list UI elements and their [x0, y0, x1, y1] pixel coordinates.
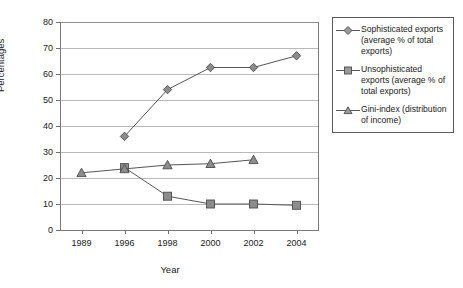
y-tick-label: 20 [43, 174, 53, 183]
data-point-marker [206, 63, 214, 71]
data-point-marker [164, 192, 172, 200]
data-point-marker [250, 200, 258, 208]
plot-area [60, 22, 318, 230]
x-tick-mark [297, 230, 298, 234]
x-axis-line [60, 230, 319, 231]
x-tick-mark [254, 230, 255, 234]
legend-label: Gini-index (distribution of income) [360, 104, 449, 126]
y-tick-label: 60 [43, 70, 53, 79]
legend-label: Unsophisticated exports (average % of to… [360, 64, 449, 97]
x-tick-mark [211, 230, 212, 234]
x-tick-label: 2002 [243, 238, 263, 248]
legend-item-gini-index: Gini-index (distribution of income) [336, 104, 449, 126]
legend-item-sophisticated-exports: Sophisticated exports (average % of tota… [336, 24, 449, 57]
y-tick-label: 30 [43, 148, 53, 157]
square-marker-icon [336, 65, 360, 76]
data-point-marker [207, 200, 215, 208]
x-tick-label: 1989 [71, 238, 91, 248]
plot-right-border [318, 22, 319, 231]
y-tick-label: 10 [43, 200, 53, 209]
data-point-marker [293, 201, 301, 209]
x-axis-title: Year [0, 265, 340, 275]
legend-label: Sophisticated exports (average % of tota… [360, 24, 449, 57]
x-tick-label: 1996 [114, 238, 134, 248]
x-tick-mark [168, 230, 169, 234]
y-tick-label: 50 [43, 96, 53, 105]
data-point-marker [249, 155, 258, 163]
data-point-marker [249, 63, 257, 71]
y-tick-label: 80 [43, 18, 53, 27]
y-tick-label: 70 [43, 44, 53, 53]
diamond-marker-icon [336, 25, 360, 36]
chart-root: Percentages 01020304050607080 1989199619… [0, 0, 463, 288]
series-layer [60, 22, 318, 230]
triangle-marker-icon [336, 105, 360, 116]
x-tick-label: 2004 [286, 238, 306, 248]
data-point-marker [292, 52, 300, 60]
x-tick-mark [82, 230, 83, 234]
x-tick-mark [125, 230, 126, 234]
y-tick-label: 0 [48, 226, 53, 235]
y-tick-label: 40 [43, 122, 53, 131]
x-tick-label: 2000 [200, 238, 220, 248]
y-axis-title: Percentages [0, 39, 6, 92]
chart-legend: Sophisticated exports (average % of tota… [332, 17, 454, 133]
legend-item-unsophisticated-exports: Unsophisticated exports (average % of to… [336, 64, 449, 97]
x-tick-label: 1998 [157, 238, 177, 248]
